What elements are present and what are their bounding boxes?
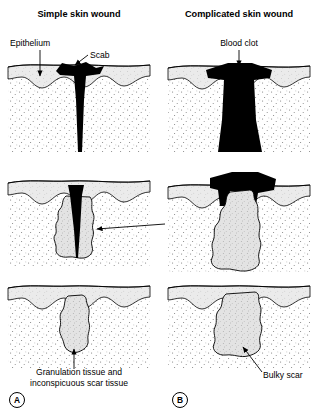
label-scab: Scab	[90, 50, 110, 60]
panel-complicated-stage2	[168, 172, 310, 272]
label-scar-simple-line1: Granulation tissue and	[36, 367, 122, 377]
panel-marker-b-label: B	[177, 395, 183, 405]
panel-marker-a-label: A	[14, 395, 20, 405]
label-blood-clot: Blood clot	[220, 38, 258, 48]
column-title-complicated: Complicated skin wound	[185, 9, 293, 19]
label-bulky-scar: Bulky scar	[263, 370, 303, 380]
label-scar-simple-line2: inconspicuous scar tissue	[30, 378, 128, 388]
panel-complicated-stage3: Bulky scar	[168, 286, 310, 380]
wound-healing-figure: Simple skin wound Complicated skin wound…	[0, 0, 317, 415]
panel-marker-a: A	[10, 393, 25, 408]
column-title-simple: Simple skin wound	[37, 9, 120, 19]
panel-marker-b: B	[173, 393, 188, 408]
label-epithelium: Epithelium	[10, 38, 50, 48]
